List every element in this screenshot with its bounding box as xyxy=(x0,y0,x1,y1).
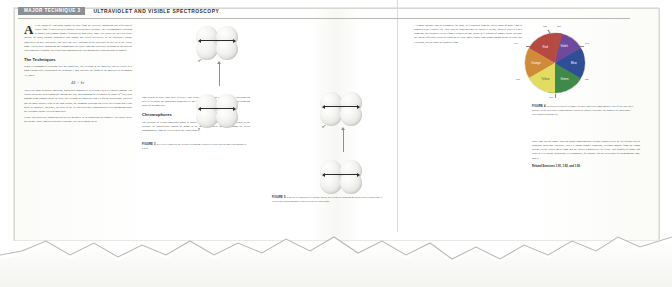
excitation-arrow-icon xyxy=(219,64,220,86)
wavelength-label-400: 400 xyxy=(557,25,561,28)
paragraph-text: ll the colors of vegetation around us ar… xyxy=(24,24,132,52)
figure-5-orbital-diagram: π* xyxy=(320,92,366,190)
wavelength-label-560: 560 xyxy=(549,96,553,99)
paragraph-text: A d-metal ion may also be responsible fo… xyxy=(414,24,522,45)
page-gutter xyxy=(397,0,398,232)
figure-5-caption: FIGURE 5 In an n-to-π* transition of a c… xyxy=(272,196,382,204)
bond-axis-arrow xyxy=(201,40,233,41)
wheel-vertical-axis xyxy=(555,33,556,93)
banner-rule xyxy=(18,18,630,19)
major-technique-banner: MAJOR TECHNIQUE 3 ULTRAVIOLET AND VISIBL… xyxy=(18,6,219,16)
paragraph: All the colors of vegetation around us a… xyxy=(24,24,132,53)
figure-4-caption: FIGURE 4 The perceived color of a comple… xyxy=(532,105,640,116)
text-column-3: A d-metal ion may also be responsible fo… xyxy=(414,24,522,104)
torn-paper-edge xyxy=(0,225,672,287)
wavelength-label-490: 490 xyxy=(585,78,589,81)
figure-4-color-wheel: Violet Blue Green Yellow Orange Red 800 … xyxy=(518,26,592,100)
bond-axis-arrow xyxy=(325,174,357,175)
wavelength-label-430: 430 xyxy=(585,42,589,45)
paragraph-text: When electromagnetic radiation falls on … xyxy=(24,65,132,77)
wavelength-label-620: 620 xyxy=(514,42,518,45)
wheel-tick xyxy=(555,94,556,98)
heading-the-techniques: The Techniques xyxy=(24,57,132,63)
orbital-label-pi-star: π* xyxy=(198,59,201,63)
wheel-tick xyxy=(526,46,530,47)
nonbonding-orbital xyxy=(320,160,366,190)
figure-3-label: FIGURE 3 xyxy=(142,143,156,146)
banner-tag: MAJOR TECHNIQUE 3 xyxy=(18,7,85,16)
figure-3-caption: FIGURE 3 In a π-to-π* transition, an ele… xyxy=(142,143,250,151)
paragraph-text: white light and the sample takes on colo… xyxy=(532,140,640,161)
banner-title: ULTRAVIOLET AND VISIBLE SPECTROSCOPY xyxy=(93,9,219,14)
bond-axis-arrow xyxy=(201,108,233,109)
figure-3-orbital-diagram: π* π xyxy=(196,26,242,124)
bond-axis-arrow xyxy=(325,106,357,107)
antibonding-orbital-pi-star xyxy=(196,26,242,56)
related-exercises: Related Exercises 1.91, 1.92, and 1.93 xyxy=(532,165,640,169)
text-column-1: All the colors of vegetation around us a… xyxy=(24,24,132,230)
text-column-4: white light and the sample takes on colo… xyxy=(532,140,640,230)
paragraph-text: This is the Bohr frequency condition, wh… xyxy=(24,89,132,114)
figure-5-caption-text: In an n-to-π* transition of a carbonyl g… xyxy=(272,196,382,203)
figure-4-caption-text: The perceived color of a complex in whit… xyxy=(532,105,633,116)
figure-4-label: FIGURE 4 xyxy=(532,105,546,108)
drop-cap: A xyxy=(24,24,35,34)
excitation-arrow-icon xyxy=(343,130,344,152)
antibonding-orbital-pi-star xyxy=(320,92,366,122)
wavelength-label-800: 800 xyxy=(543,25,547,28)
bonding-orbital-pi xyxy=(196,94,242,124)
equation-bohr-frequency: ΔE = hν xyxy=(24,81,132,87)
figure-5-label: FIGURE 5 xyxy=(272,196,286,199)
figure-3-caption-text: In a π-to-π* transition, an electron in … xyxy=(142,143,246,150)
paragraph-text: Visible and ultraviolet absorption spect… xyxy=(24,116,132,124)
scanned-textbook-spread: MAJOR TECHNIQUE 3 ULTRAVIOLET AND VISIBL… xyxy=(0,0,672,287)
wheel-tick xyxy=(580,46,584,47)
orbital-label-pi-star: π* xyxy=(322,125,325,129)
wavelength-label-580: 580 xyxy=(516,78,520,81)
orbital-label-pi: π xyxy=(198,127,200,131)
